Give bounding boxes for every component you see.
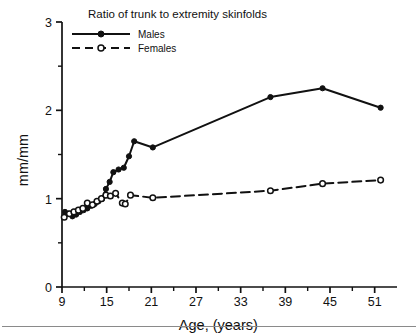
data-point-females	[320, 181, 326, 187]
figure-panel: 0123915212733394551Ratio of trunk to ext…	[0, 0, 418, 335]
data-point-males	[116, 167, 121, 172]
data-point-females	[378, 177, 384, 183]
x-tick-label-27: 27	[189, 295, 203, 309]
legend-label-males: Males	[138, 29, 165, 40]
data-point-males	[107, 179, 112, 184]
legend-label-females: Females	[138, 43, 176, 54]
data-point-females	[150, 195, 156, 201]
data-point-males	[132, 139, 137, 144]
x-tick-label-21: 21	[144, 295, 158, 309]
footer-rule	[2, 326, 416, 327]
x-tick-label-15: 15	[100, 295, 114, 309]
data-point-males	[103, 186, 108, 191]
y-tick-label-1: 1	[45, 193, 52, 207]
data-point-females	[80, 206, 86, 212]
x-axis-title: Age, (years)	[179, 317, 258, 333]
x-tick-label-9: 9	[59, 295, 66, 309]
y-tick-label-3: 3	[45, 16, 52, 30]
data-point-males	[378, 105, 383, 110]
data-point-males	[126, 154, 131, 159]
data-point-females	[122, 201, 128, 207]
data-point-females	[128, 192, 134, 198]
data-point-males	[320, 86, 325, 91]
legend-marker-males	[98, 31, 104, 37]
chart-canvas: 0123915212733394551Ratio of trunk to ext…	[0, 0, 418, 335]
y-tick-label-2: 2	[45, 104, 52, 118]
x-tick-label-33: 33	[234, 295, 248, 309]
x-tick-label-39: 39	[278, 295, 292, 309]
x-tick-label-45: 45	[323, 295, 337, 309]
x-tick-label-51: 51	[368, 295, 382, 309]
data-point-females	[61, 214, 67, 220]
data-point-males	[150, 145, 155, 150]
y-axis-title: mm/mm	[15, 134, 31, 186]
data-point-males	[121, 165, 126, 170]
legend-marker-females	[98, 45, 104, 51]
data-point-females	[113, 191, 119, 197]
y-tick-label-0: 0	[45, 281, 52, 295]
data-point-females	[268, 188, 274, 194]
data-point-males	[111, 170, 116, 175]
data-point-males	[268, 94, 273, 99]
chart-title: Ratio of trunk to extremity skinfolds	[88, 8, 267, 20]
